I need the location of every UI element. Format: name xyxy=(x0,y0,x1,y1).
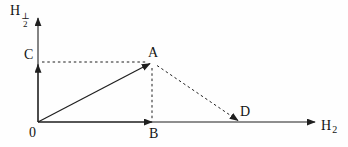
x-axis-label-sub: 2 xyxy=(332,124,337,135)
vector-diagram: H⊥2 C A 0 B D H2 xyxy=(0,0,348,147)
y-axis-label: H⊥2 xyxy=(10,4,30,28)
y-axis-label-base: H xyxy=(10,3,20,18)
x-axis-label-base: H xyxy=(321,118,331,133)
point-label-c: C xyxy=(24,48,33,62)
point-label-b: B xyxy=(149,127,158,141)
dashed-vector-a-d xyxy=(157,66,238,121)
origin-label: 0 xyxy=(29,126,36,140)
vector-oa xyxy=(38,64,150,123)
point-label-a: A xyxy=(148,46,158,60)
y-axis-label-sub: 2 xyxy=(23,20,28,28)
diagram-lines xyxy=(0,0,348,147)
point-label-d: D xyxy=(240,105,250,119)
x-axis-label: H2 xyxy=(321,119,337,135)
